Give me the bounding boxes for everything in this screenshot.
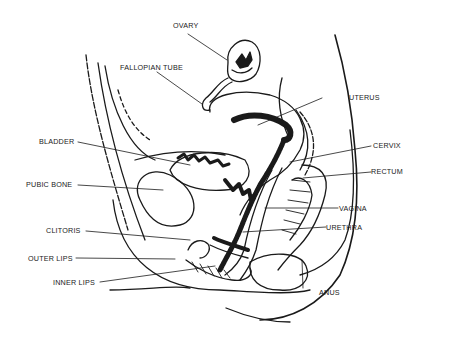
- label-urethra: URETHRA: [326, 224, 362, 231]
- label-clitoris: CLITORIS: [46, 227, 81, 234]
- label-ovary: OVARY: [173, 22, 199, 29]
- label-uterus: UTERUS: [349, 94, 380, 101]
- label-vagina: VAGINA: [339, 205, 367, 212]
- label-anus: ANUS: [319, 289, 340, 296]
- label-outer-lips: OUTER LIPS: [28, 255, 73, 262]
- label-fallopian-tube: FALLOPIAN TUBE: [120, 64, 183, 71]
- anatomy-diagram: OVARY FALLOPIAN TUBE UTERUS BLADDER CERV…: [0, 0, 451, 349]
- label-rectum: RECTUM: [371, 168, 403, 175]
- label-inner-lips: INNER LIPS: [53, 279, 95, 286]
- label-pubic-bone: PUBIC BONE: [26, 181, 72, 188]
- label-cervix: CERVIX: [373, 142, 401, 149]
- label-bladder: BLADDER: [39, 138, 74, 145]
